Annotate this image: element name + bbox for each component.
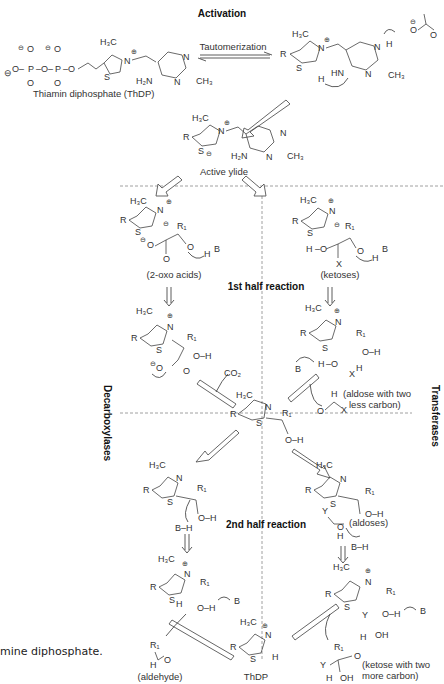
svg-text:R: R — [292, 216, 299, 226]
svg-text:O: O — [156, 363, 163, 373]
ketose-adduct: R S N ⊕ H₃C ⊖ R₁ O H –O X H B (ketoses) — [292, 195, 388, 280]
svg-text:B: B — [295, 364, 301, 374]
svg-text:O: O — [54, 44, 61, 54]
svg-text:B: B — [214, 244, 220, 254]
svg-text:X: X — [341, 405, 347, 415]
svg-text:R: R — [280, 49, 287, 59]
svg-text:N: N — [266, 152, 273, 162]
second-half-reaction-label: 2nd half reaction — [226, 519, 306, 530]
svg-text:H: H — [204, 249, 211, 259]
svg-text:B–H: B–H — [175, 523, 193, 533]
svg-text:R: R — [143, 485, 150, 495]
svg-text:R₁: R₁ — [345, 221, 355, 231]
svg-text:N: N — [174, 77, 181, 87]
svg-text:O: O — [147, 240, 154, 250]
oxo-acid-intermediate: R S N ⊕ H₃C R₁ O–H O O ⊖ — [131, 306, 212, 378]
svg-text:⊕: ⊕ — [262, 622, 268, 629]
svg-text:S: S — [330, 499, 336, 509]
svg-text:H: H — [337, 531, 344, 541]
svg-text:H₃C: H₃C — [192, 113, 209, 123]
svg-text:–O–: –O– — [36, 64, 53, 74]
svg-text:⊖: ⊖ — [163, 220, 169, 227]
thdp-mechanism-diagram: Activation ⊖ O– P –O– P –O O O O O ⊖ ⊖ S… — [0, 0, 444, 684]
oxo-acid-adduct: R S N ⊕ H₃C ⊖ R₁ O O ⊖ O H B (2-oxo acid… — [120, 196, 220, 280]
aldose-release: H O X (aldose with two less carbon) — [288, 374, 411, 416]
svg-text:B: B — [234, 596, 240, 606]
svg-text:H₃C: H₃C — [300, 195, 317, 205]
label-aldoses: (aldoses) — [349, 517, 388, 528]
svg-text:O–H: O–H — [198, 513, 217, 523]
svg-text:⊕: ⊕ — [365, 567, 371, 574]
svg-text:⊖: ⊖ — [410, 18, 416, 25]
svg-text:H₃C: H₃C — [240, 617, 257, 627]
svg-text:O: O — [317, 406, 324, 416]
svg-text:OH: OH — [340, 673, 354, 683]
svg-text:N: N — [335, 317, 342, 327]
svg-text:N: N — [365, 577, 372, 587]
svg-text:Tautomerization: Tautomerization — [199, 41, 266, 52]
svg-text:R₁: R₁ — [150, 640, 160, 650]
svg-text:O–H: O–H — [193, 351, 212, 361]
svg-text:O: O — [354, 651, 361, 661]
aldehyde-product: R₁ H O (aldehyde) — [138, 614, 234, 682]
co2-release: CO₂ — [197, 368, 242, 408]
svg-text:R₁: R₁ — [386, 586, 396, 596]
svg-text:R: R — [131, 333, 138, 343]
svg-text:O: O — [357, 246, 364, 256]
svg-text:H: H — [372, 253, 379, 263]
svg-text:O: O — [183, 366, 190, 376]
thdp-regenerated: R S N ⊕ H₃C H ThDP — [230, 617, 279, 682]
title-activation: Activation — [198, 8, 246, 19]
svg-text:H₃C: H₃C — [305, 303, 322, 313]
svg-text:O: O — [27, 78, 34, 88]
svg-text:O: O — [187, 242, 194, 252]
svg-text:H₃C: H₃C — [333, 562, 350, 572]
down-arrows-second — [182, 534, 348, 563]
svg-text:H: H — [386, 39, 393, 49]
svg-text:O–: O– — [12, 64, 24, 74]
svg-text:–O: –O — [63, 64, 75, 74]
label-aldose-less-carbon-2: less carbon) — [349, 399, 401, 410]
svg-text:N: N — [157, 205, 164, 215]
arrow-left-branch — [156, 176, 182, 196]
arrow-to-left-2nd — [196, 430, 239, 462]
svg-text:H: H — [356, 363, 363, 373]
svg-text:R: R — [120, 215, 127, 225]
svg-text:⊖: ⊖ — [150, 360, 156, 367]
svg-text:HN: HN — [331, 68, 344, 78]
enamine-protonation-left: R S N H₃C R₁ O–H B–H — [143, 460, 217, 533]
svg-text:N: N — [184, 569, 191, 579]
svg-text:R₁: R₁ — [177, 221, 187, 231]
svg-text:H: H — [306, 244, 313, 254]
svg-text:O–H: O–H — [285, 435, 304, 445]
aldehyde-precursor: R S N ⊕ H₃C R₁ H O–H B — [150, 554, 240, 613]
svg-text:R₁: R₁ — [200, 577, 210, 587]
svg-text:CO₂: CO₂ — [224, 368, 242, 378]
label-thdp: ThDP — [244, 671, 268, 682]
svg-text:H₃C: H₃C — [316, 460, 333, 470]
svg-text:H₂N: H₂N — [231, 151, 248, 161]
svg-text:N: N — [176, 473, 183, 483]
svg-text:⊖: ⊖ — [140, 236, 146, 243]
svg-text:H: H — [150, 660, 157, 670]
svg-text:O: O — [410, 25, 417, 35]
svg-text:⊕: ⊕ — [182, 560, 188, 567]
svg-text:P: P — [55, 64, 61, 74]
svg-text:R₁: R₁ — [197, 483, 207, 493]
svg-text:⊕: ⊕ — [131, 48, 137, 55]
svg-text:N: N — [124, 56, 131, 66]
svg-text:X: X — [336, 259, 342, 269]
svg-text:H₃C: H₃C — [158, 554, 175, 564]
svg-text:⊖: ⊖ — [206, 150, 212, 157]
svg-text:H₃C: H₃C — [130, 196, 147, 206]
svg-text:Y: Y — [322, 506, 328, 516]
svg-text:⊖: ⊖ — [18, 44, 24, 51]
svg-text:R: R — [305, 485, 312, 495]
svg-text:H: H — [272, 652, 279, 662]
label-oxo-acids: (2-oxo acids) — [147, 269, 202, 280]
svg-text:R: R — [150, 582, 157, 592]
svg-text:S: S — [296, 63, 302, 73]
svg-text:H₃C: H₃C — [136, 306, 153, 316]
svg-text:S: S — [307, 228, 313, 238]
svg-text:N: N — [374, 42, 381, 52]
